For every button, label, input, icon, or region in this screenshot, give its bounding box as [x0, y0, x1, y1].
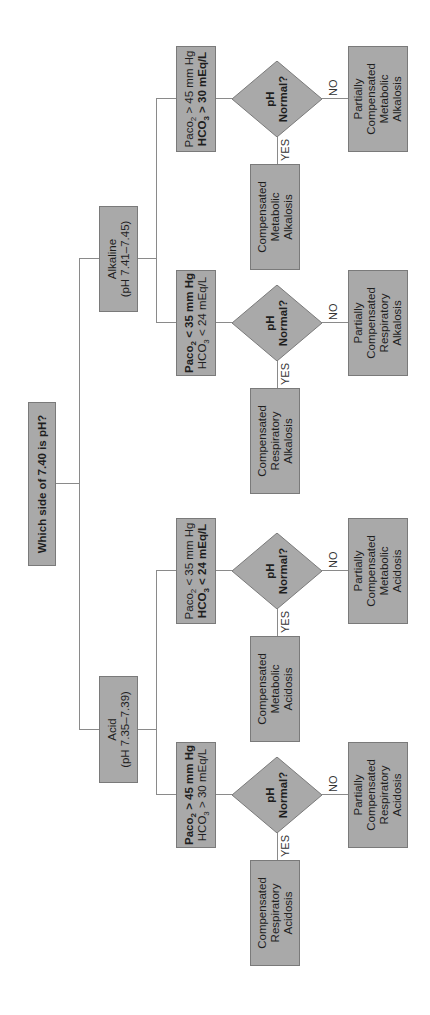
- branch-title: Acid: [106, 718, 119, 740]
- connector: [79, 258, 99, 259]
- root-question-label: Which side of 7.40 is pH?: [36, 415, 49, 554]
- decision-diamond: pHNormal?: [232, 757, 322, 833]
- no-label: NO: [327, 552, 339, 569]
- no-result-box: Partially Compensated Respiratory Acidos…: [348, 742, 408, 848]
- connector: [322, 570, 348, 571]
- yes-label: YES: [279, 363, 291, 385]
- hco3-criterion: HCO3 > 30 mEq/L: [196, 52, 209, 146]
- branch-box-alkaline: Alkaline (pH 7.41–7.45): [99, 206, 138, 312]
- paco2-criterion: Paco2 > 45 mm Hg: [183, 745, 196, 845]
- connector: [277, 609, 278, 636]
- connector: [277, 137, 278, 164]
- connector: [138, 258, 156, 259]
- criteria-box: Paco2 > 45 mm Hg HCO3 > 30 mEq/L: [176, 46, 216, 152]
- yes-result-box: Compensated Respiratory Acidosis: [250, 860, 300, 966]
- no-label: NO: [327, 80, 339, 97]
- connector: [216, 322, 232, 323]
- connector: [56, 483, 79, 484]
- decision-diamond: pHNormal?: [232, 285, 322, 361]
- connector: [322, 98, 348, 99]
- branch-line-acid: [156, 571, 157, 795]
- root-question-box: Which side of 7.40 is pH?: [28, 402, 56, 566]
- yes-label: YES: [279, 139, 291, 161]
- yes-result-box: Compensated Metabolic Acidosis: [250, 636, 300, 742]
- criteria-box: Paco2 < 35 mm Hg HCO3 < 24 mEq/L: [176, 270, 216, 376]
- no-label: NO: [327, 776, 339, 793]
- hco3-criterion: HCO3 > 30 mEq/L: [196, 749, 209, 841]
- no-result-box: Partially Compensated Metabolic Acidosis: [348, 518, 408, 624]
- yes-result-box: Compensated Respiratory Alkalosis: [250, 388, 300, 494]
- no-label: NO: [327, 304, 339, 321]
- branch-range: (pH 7.41–7.45): [119, 221, 132, 298]
- connector: [216, 794, 232, 795]
- connector: [156, 98, 176, 99]
- connector: [156, 794, 176, 795]
- criteria-box: Paco2 > 45 mm Hg HCO3 > 30 mEq/L: [176, 742, 216, 848]
- yes-result-box: Compensated Metabolic Alkalosis: [250, 164, 300, 270]
- branch-box-acid: Acid (pH 7.35–7.39): [99, 676, 138, 783]
- connector: [138, 729, 156, 730]
- no-result-box: Partially Compensated Metabolic Alkalosi…: [348, 46, 408, 152]
- trunk-line: [79, 258, 80, 730]
- connector: [277, 833, 278, 860]
- connector: [322, 322, 348, 323]
- connector: [277, 361, 278, 388]
- paco2-criterion: Paco2 < 35 mm Hg: [183, 523, 196, 620]
- branch-title: Alkaline: [106, 239, 119, 279]
- connector: [156, 570, 176, 571]
- connector: [156, 322, 176, 323]
- hco3-criterion: HCO3 < 24 mEq/L: [196, 277, 209, 369]
- connector: [322, 794, 348, 795]
- no-result-box: Partially Compensated Respiratory Alkalo…: [348, 270, 408, 376]
- paco2-criterion: Paco2 > 45 mm Hg: [183, 51, 196, 148]
- branch-range: (pH 7.35–7.39): [119, 691, 132, 768]
- connector: [216, 98, 232, 99]
- branch-line-alkaline: [156, 99, 157, 323]
- yes-label: YES: [279, 611, 291, 633]
- connector: [79, 729, 99, 730]
- paco2-criterion: Paco2 < 35 mm Hg: [183, 273, 196, 373]
- criteria-box: Paco2 < 35 mm Hg HCO3 < 24 mEq/L: [176, 518, 216, 624]
- yes-label: YES: [279, 835, 291, 857]
- connector: [216, 570, 232, 571]
- decision-diamond: pHNormal?: [232, 61, 322, 137]
- hco3-criterion: HCO3 < 24 mEq/L: [196, 524, 209, 618]
- ph-decision-flowchart: Which side of 7.40 is pH? Alkaline (pH 7…: [0, 0, 430, 1015]
- decision-diamond: pHNormal?: [232, 533, 322, 609]
